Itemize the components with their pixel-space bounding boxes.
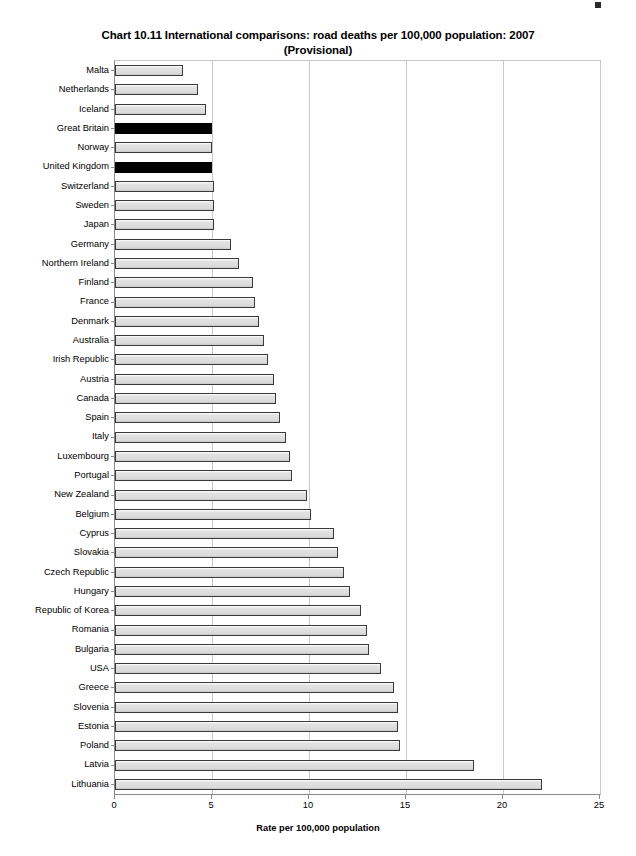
y-axis-tick [111, 726, 115, 727]
bar [115, 682, 394, 693]
y-axis-tick [111, 765, 115, 766]
y-axis-label: United Kingdom [43, 162, 109, 171]
page-header-mark [595, 2, 601, 8]
x-axis-tick-20 [502, 795, 503, 799]
y-axis-tick [111, 784, 115, 785]
bar [115, 181, 214, 192]
x-axis-tick-label: 10 [303, 800, 313, 810]
y-axis-label: Belgium [75, 510, 109, 519]
bar-row: Sweden [115, 200, 600, 211]
y-axis-tick [111, 687, 115, 688]
bar [115, 239, 231, 250]
bar [115, 451, 290, 462]
bar-row: Estonia [115, 721, 600, 732]
bar-row: Latvia [115, 760, 600, 771]
y-axis-label: Iceland [79, 105, 109, 114]
bar-row: Switzerland [115, 181, 600, 192]
y-axis-tick [111, 630, 115, 631]
y-axis-label: Republic of Korea [35, 606, 109, 615]
bar [115, 547, 338, 558]
bar [115, 528, 334, 539]
bar-row: Germany [115, 239, 600, 250]
y-axis-tick [111, 321, 115, 322]
y-axis-tick [111, 514, 115, 515]
bar-rows: MaltaNetherlandsIcelandGreat BritainNorw… [115, 61, 600, 794]
bar [115, 65, 183, 76]
y-axis-label: Norway [77, 143, 109, 152]
bar [115, 277, 253, 288]
y-axis-tick [111, 533, 115, 534]
bar [115, 567, 344, 578]
y-axis-tick [111, 147, 115, 148]
bar [115, 374, 274, 385]
y-axis-label: France [80, 297, 109, 306]
bar [115, 760, 474, 771]
bar-row: Netherlands [115, 84, 600, 95]
bar-row: United Kingdom [115, 162, 600, 173]
y-axis-label: Great Britain [57, 124, 109, 133]
bar [115, 297, 255, 308]
y-axis-label: Finland [79, 278, 110, 287]
bar-row: Australia [115, 335, 600, 346]
y-axis-tick [111, 302, 115, 303]
bar [115, 84, 198, 95]
bar-row: Iceland [115, 104, 600, 115]
y-axis-tick [111, 591, 115, 592]
bar [115, 470, 292, 481]
y-axis-tick [111, 263, 115, 264]
bar-row: Hungary [115, 586, 600, 597]
bar [115, 644, 369, 655]
bar [115, 200, 214, 211]
bar [115, 162, 212, 173]
bar [115, 779, 542, 790]
bar-row: Romania [115, 625, 600, 636]
bar [115, 123, 212, 134]
y-axis-label: Cyprus [80, 529, 109, 538]
bar-row: Lithuania [115, 779, 600, 790]
bar [115, 142, 212, 153]
bar-row: Denmark [115, 316, 600, 327]
bar [115, 490, 307, 501]
y-axis-label: Austria [80, 375, 109, 384]
bar-row: Czech Republic [115, 567, 600, 578]
y-axis-label: Lithuania [71, 780, 109, 789]
x-axis-tick-15 [405, 795, 406, 799]
bar [115, 335, 264, 346]
y-axis-tick [111, 167, 115, 168]
y-axis-tick [111, 379, 115, 380]
y-axis-label: New Zealand [54, 490, 109, 499]
bar-row: Luxembourg [115, 451, 600, 462]
y-axis-label: Irish Republic [53, 355, 109, 364]
y-axis-label: Czech Republic [44, 568, 109, 577]
y-axis-tick [111, 417, 115, 418]
bar-row: Portugal [115, 470, 600, 481]
y-axis-tick [111, 610, 115, 611]
y-axis-label: Switzerland [61, 182, 109, 191]
bar [115, 663, 381, 674]
y-axis-label: Slovakia [74, 548, 109, 557]
chart-title: Chart 10.11 International comparisons: r… [101, 29, 534, 41]
bar [115, 393, 276, 404]
y-axis-tick [111, 707, 115, 708]
x-axis: 0510152025 [114, 795, 601, 815]
y-axis-tick [111, 224, 115, 225]
y-axis-tick [111, 437, 115, 438]
bar-row: Irish Republic [115, 354, 600, 365]
y-axis-label: Spain [85, 413, 109, 422]
y-axis-tick [111, 495, 115, 496]
plot-wrapper: MaltaNetherlandsIcelandGreat BritainNorw… [0, 60, 636, 795]
bar-row: Northern Ireland [115, 258, 600, 269]
y-axis-label: Malta [86, 66, 109, 75]
bar-row: Poland [115, 740, 600, 751]
y-axis-label: Japan [84, 220, 109, 229]
bar-row: Italy [115, 432, 600, 443]
bar-row: France [115, 297, 600, 308]
y-axis-label: Portugal [74, 471, 109, 480]
bar [115, 354, 268, 365]
y-axis-tick [111, 109, 115, 110]
y-axis-tick [111, 244, 115, 245]
y-axis-label: Bulgaria [75, 645, 109, 654]
y-axis-tick [111, 340, 115, 341]
bar [115, 721, 398, 732]
bar [115, 605, 361, 616]
